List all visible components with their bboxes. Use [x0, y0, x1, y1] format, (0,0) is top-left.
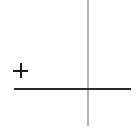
- diagram-canvas: +: [0, 0, 137, 129]
- plus-marker-vertical-stroke: [20, 63, 22, 78]
- plus-marker-icon: [13, 63, 28, 78]
- x-axis-line: [14, 88, 131, 90]
- y-axis-line: [87, 0, 89, 126]
